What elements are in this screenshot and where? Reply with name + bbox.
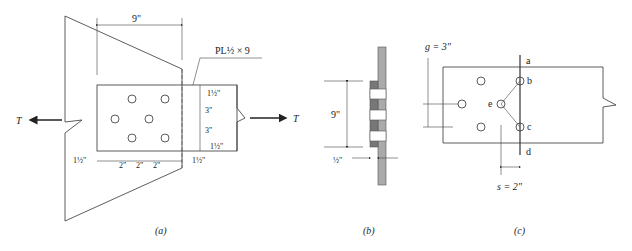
bolted-connection-diagram: 9" PL½ × 9 T T 1½" 3" 3" 1½" 1½" 2" 2" 2… <box>0 0 632 251</box>
svg-text:a: a <box>526 55 531 66</box>
svg-text:2": 2" <box>119 161 126 170</box>
force-left: T <box>16 115 23 126</box>
plate-label: PL½ × 9 <box>215 45 250 56</box>
svg-text:s = 2": s = 2" <box>497 181 523 192</box>
svg-text:3": 3" <box>205 106 212 115</box>
svg-text:1½": 1½" <box>210 142 223 151</box>
caption-c: (c) <box>514 225 526 237</box>
svg-text:3": 3" <box>205 126 212 135</box>
figure-a: 9" PL½ × 9 T T 1½" 3" 3" 1½" 1½" 2" 2" 2… <box>16 13 300 237</box>
svg-text:1½": 1½" <box>192 156 205 165</box>
caption-b: (b) <box>363 225 375 237</box>
svg-text:d: d <box>526 146 531 157</box>
svg-text:b: b <box>527 75 532 86</box>
width-dim: 9" <box>132 13 141 24</box>
svg-text:c: c <box>527 121 532 132</box>
bolt-holes <box>111 95 169 142</box>
svg-text:e: e <box>488 98 493 109</box>
svg-text:½": ½" <box>333 156 342 165</box>
svg-text:9": 9" <box>331 109 340 120</box>
figure-b: 9" ½" (b) <box>324 47 398 237</box>
svg-text:1½": 1½" <box>207 89 220 98</box>
svg-text:1½": 1½" <box>73 156 86 165</box>
svg-text:2": 2" <box>153 161 160 170</box>
gusset-plate <box>65 16 182 221</box>
force-right: T <box>293 113 300 124</box>
svg-text:2": 2" <box>136 161 143 170</box>
caption-a: (a) <box>155 225 167 237</box>
figure-c: a b e c d g = 3" s = 2" (c) <box>423 41 616 237</box>
svg-text:g = 3": g = 3" <box>425 41 452 52</box>
